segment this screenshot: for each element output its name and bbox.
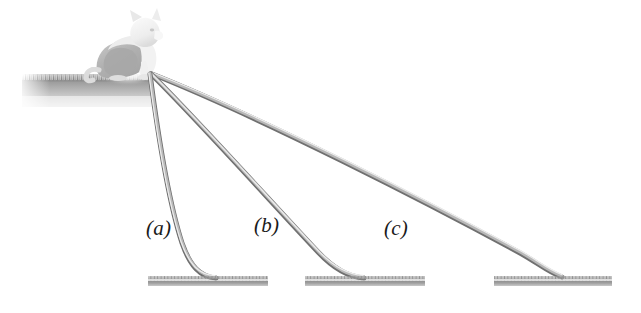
landing-pad-b: [305, 276, 425, 286]
landing-pad-c: [494, 276, 612, 286]
landing-pad-a: [148, 276, 268, 286]
ramp-label-a: (a): [146, 216, 171, 241]
ramp-label-c: (c): [384, 216, 408, 241]
ramp-c: [152, 73, 562, 278]
ramp-label-b: (b): [254, 213, 279, 238]
figure-illustration: [0, 0, 641, 313]
cat: [86, 8, 168, 81]
figure-canvas: (a) (b) (c): [0, 0, 641, 313]
